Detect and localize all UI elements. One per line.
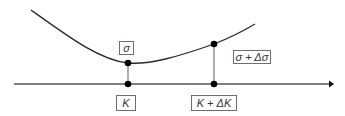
volatility-curve xyxy=(31,10,255,63)
point-sigma-plus-dsigma xyxy=(211,41,218,48)
label-k-plus-delta-k: K + ΔK xyxy=(191,95,237,111)
label-sigma: σ xyxy=(119,41,134,55)
point-k-plus-dk xyxy=(211,81,218,88)
label-k: K xyxy=(116,95,136,111)
point-k xyxy=(125,81,132,88)
point-sigma xyxy=(125,60,132,67)
diagram-canvas xyxy=(0,0,345,116)
label-sigma-plus-delta-sigma: σ + Δσ xyxy=(233,50,271,64)
axis-arrow-icon xyxy=(329,81,334,88)
